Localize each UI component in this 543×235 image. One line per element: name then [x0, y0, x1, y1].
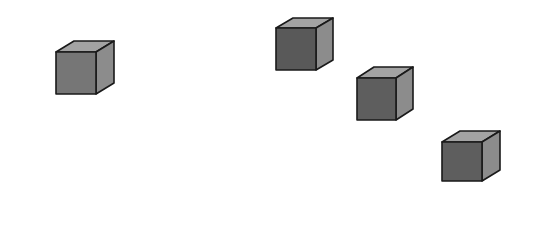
cube-4: [442, 131, 500, 181]
cube-front-face: [56, 52, 96, 94]
cube-scene: [0, 0, 543, 235]
cube-front-face: [442, 142, 482, 181]
cube-2: [276, 18, 333, 70]
cube-3: [357, 67, 413, 120]
cube-1: [56, 41, 114, 94]
cube-front-face: [357, 78, 396, 120]
cube-front-face: [276, 28, 316, 70]
cube-side-face: [316, 18, 333, 70]
